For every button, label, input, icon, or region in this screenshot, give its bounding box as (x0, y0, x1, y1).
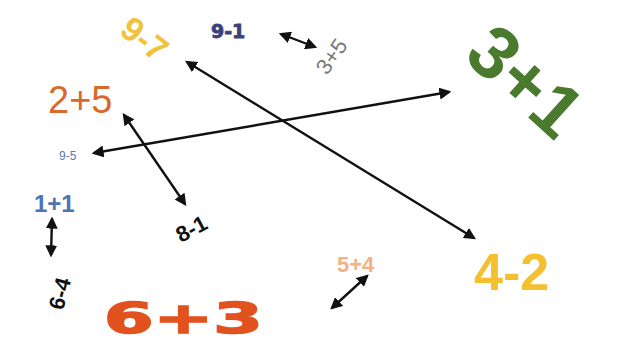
expression-9-7: 9-7 (114, 9, 176, 69)
expression-6-3: 6+3 (104, 294, 263, 343)
expression-6-4: 6-4 (44, 274, 77, 312)
expression-8-1: 8-1 (172, 210, 212, 247)
arrow-6-3-to-5-4 (332, 276, 367, 308)
expression-5-4: 5+4 (337, 252, 375, 277)
matching-diagram: 9-7 9-1 3+5 2+5 9-5 3+1 8-1 1+1 6-4 5+4 … (0, 0, 639, 352)
arrow-9-5-to-3-1 (94, 92, 449, 153)
expression-3-5: 3+5 (311, 34, 353, 79)
expression-9-5: 9-5 (59, 149, 77, 163)
arrow-9-7-to-4-2 (187, 62, 474, 238)
arrow-1-1-to-6-4 (51, 219, 52, 255)
expression-9-1: 9-1 (211, 20, 245, 42)
expression-4-2: 4-2 (474, 243, 549, 301)
arrow-9-1-to-3-5 (281, 34, 315, 47)
expression-2-5: 2+5 (48, 79, 112, 121)
arrows (51, 34, 474, 308)
arrow-2-5-to-8-1 (124, 115, 185, 204)
expression-1-1: 1+1 (34, 190, 75, 217)
expression-3-1: 3+1 (451, 8, 600, 154)
